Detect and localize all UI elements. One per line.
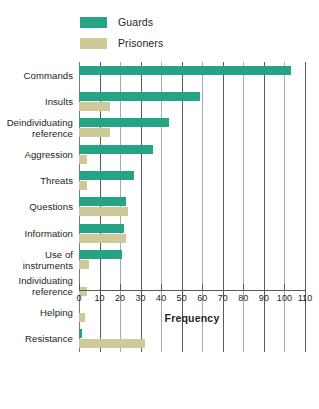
x-tick-80 — [243, 284, 244, 291]
bar-prisoners — [79, 339, 145, 348]
category-label: Commands — [24, 70, 73, 81]
legend-item-guards: Guards — [80, 14, 220, 30]
x-tick-30 — [141, 284, 142, 291]
category-label: Individuating reference — [18, 275, 73, 297]
x-tick-10 — [100, 284, 101, 291]
bar-prisoners — [79, 234, 126, 243]
x-tick-20 — [120, 284, 121, 291]
chart-legend: Guards Prisoners — [80, 14, 220, 56]
bar-prisoners — [79, 207, 128, 216]
legend-label-prisoners: Prisoners — [118, 38, 163, 49]
x-tick-100 — [284, 284, 285, 291]
category-label: Deindividuating reference — [7, 117, 73, 139]
bar-chart-plot-area: CommandsInsultsDeindividuating reference… — [0, 62, 319, 409]
category-label: Insults — [45, 96, 73, 107]
category-label: Use of instruments — [23, 249, 73, 271]
category-label: Aggression — [25, 149, 74, 160]
bar-group — [79, 167, 305, 193]
x-tick-70 — [223, 284, 224, 291]
bar-group — [79, 62, 305, 88]
bar-guards — [79, 224, 124, 233]
x-tick-label-110: 110 — [292, 293, 318, 303]
x-tick-60 — [202, 284, 203, 291]
bar-prisoners — [79, 260, 89, 269]
bar-group — [79, 194, 305, 220]
category-label: Questions — [29, 201, 73, 212]
category-label: Threats — [40, 175, 73, 186]
category-label: Helping — [40, 307, 73, 318]
bar-group — [79, 326, 305, 352]
category-label: Information — [24, 228, 73, 239]
x-tick-0 — [79, 284, 80, 291]
x-axis-title: Frequency — [79, 312, 305, 324]
category-label: Resistance — [25, 333, 73, 344]
bar-prisoners — [79, 128, 110, 137]
x-tick-50 — [182, 284, 183, 291]
legend-swatch-prisoners — [80, 38, 107, 49]
bar-group — [79, 141, 305, 167]
legend-swatch-guards — [80, 17, 107, 28]
bar-prisoners — [79, 181, 87, 190]
bar-guards — [79, 145, 153, 154]
bar-group — [79, 247, 305, 273]
legend-label-guards: Guards — [118, 17, 153, 28]
legend-item-prisoners: Prisoners — [80, 35, 220, 51]
bar-group — [79, 220, 305, 246]
bar-guards — [79, 66, 291, 75]
bar-guards — [79, 171, 134, 180]
bar-guards — [79, 92, 200, 101]
bar-guards — [79, 250, 122, 259]
category-axis-labels: CommandsInsultsDeindividuating reference… — [0, 62, 76, 352]
bar-guards — [79, 329, 82, 338]
bar-guards — [79, 197, 126, 206]
x-tick-110 — [305, 284, 306, 291]
bar-group — [79, 115, 305, 141]
bars-and-gridlines — [79, 62, 305, 352]
gridline-110 — [305, 62, 306, 352]
bar-group — [79, 88, 305, 114]
bar-guards — [79, 118, 169, 127]
bar-prisoners — [79, 155, 87, 164]
bar-prisoners — [79, 102, 110, 111]
x-tick-90 — [264, 284, 265, 291]
x-tick-40 — [161, 284, 162, 291]
x-axis-line — [79, 290, 305, 291]
